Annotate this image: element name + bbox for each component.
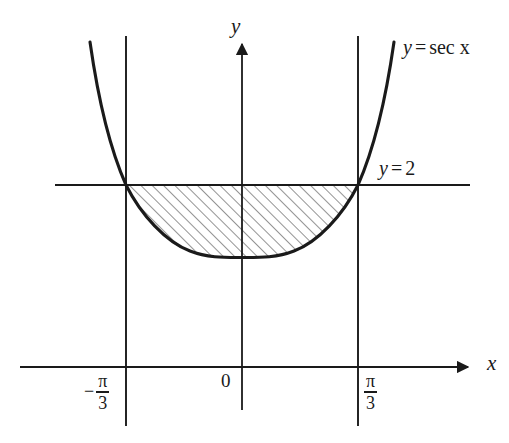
math-figure: y x y=sec x y=2 0 − π 3 π 3 bbox=[0, 0, 509, 443]
curve-equation-rhs: sec x bbox=[429, 36, 470, 58]
y-axis-label: y bbox=[231, 16, 240, 37]
line-equation-rhs: 2 bbox=[405, 157, 415, 179]
curve-equation-lhs: y bbox=[403, 36, 412, 58]
x-tick-label-neg-pi-over-3: − π 3 bbox=[84, 372, 109, 412]
line-equation-label: y=2 bbox=[379, 158, 415, 178]
x-tick-label-pi-over-3: π 3 bbox=[364, 372, 377, 412]
fraction-denominator: 3 bbox=[364, 393, 377, 412]
curve-equation-label: y=sec x bbox=[403, 37, 470, 57]
fraction: π 3 bbox=[364, 372, 377, 412]
fraction-denominator: 3 bbox=[96, 393, 109, 412]
line-equation-equals: = bbox=[388, 157, 405, 179]
curve-equation-equals: = bbox=[412, 36, 429, 58]
plot-canvas bbox=[0, 0, 509, 443]
x-axis-label: x bbox=[487, 353, 496, 374]
fraction-numerator: π bbox=[364, 372, 377, 391]
line-equation-lhs: y bbox=[379, 157, 388, 179]
minus-sign-icon: − bbox=[84, 382, 96, 400]
origin-label: 0 bbox=[221, 371, 231, 390]
fraction-numerator: π bbox=[96, 372, 109, 391]
fraction: π 3 bbox=[96, 372, 109, 412]
